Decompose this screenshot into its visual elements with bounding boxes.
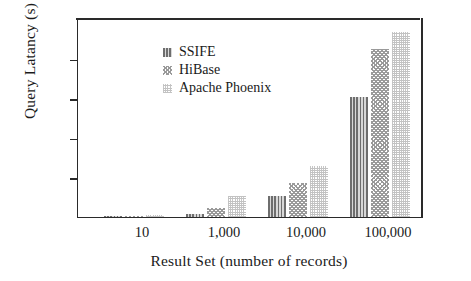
x-tick-label-10000: 10,000 [263,224,349,241]
legend: SSIFE HiBase Apache Phoenix [163,44,313,98]
bar-ssife-1000 [186,214,204,217]
legend-item-hibase: HiBase [163,62,313,79]
bar-phoenix-100000 [392,32,410,217]
bar-ssife-10000 [268,196,286,217]
y-tick-mark-0.5 [70,178,77,179]
x-tick-label-100000: 100,000 [345,224,431,241]
bar-hibase-100000 [371,49,389,217]
bar-phoenix-10 [146,215,164,217]
y-tick-mark-1 [70,139,77,140]
y-tick-mark-1.5 [70,99,77,100]
plot-frame-right [421,18,423,218]
plot-area: SSIFE HiBase Apache Phoenix [77,20,421,218]
bar-hibase-10 [125,216,143,217]
x-tick-label-10: 10 [99,224,185,241]
y-tick-mark-2 [70,60,77,61]
bar-ssife-100000 [350,97,368,217]
bar-hibase-10000 [289,183,307,217]
plot-frame-top [76,18,420,20]
legend-swatch-apache-phoenix-icon [163,84,172,93]
legend-swatch-hibase-icon [163,66,172,75]
chart-figure: Query Latancy (s) 0 0.5 1 1.5 2 2.5 SSIF… [0,0,471,281]
bar-hibase-1000 [207,208,225,217]
legend-label-hibase: HiBase [179,63,220,77]
x-axis-title: Result Set (number of records) [77,252,421,270]
bar-ssife-10 [104,216,122,217]
legend-item-ssife: SSIFE [163,44,313,61]
legend-label-ssife: SSIFE [179,45,216,59]
bar-phoenix-1000 [228,196,246,217]
legend-label-apache-phoenix: Apache Phoenix [179,81,271,95]
legend-item-apache-phoenix: Apache Phoenix [163,80,313,97]
x-tick-label-1000: 1,000 [181,224,267,241]
legend-swatch-ssife-icon [163,48,172,57]
y-axis-title: Query Latancy (s) [19,0,41,151]
bar-phoenix-10000 [310,166,328,217]
